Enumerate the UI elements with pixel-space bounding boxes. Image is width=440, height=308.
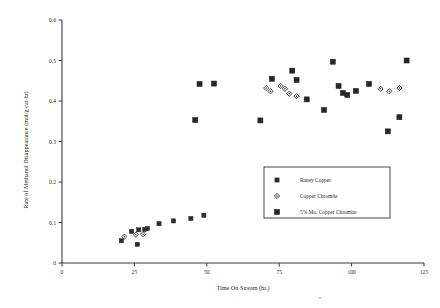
data-point xyxy=(202,213,206,217)
y-axis-title: Rate of Methanol Disappearance (mol/g ca… xyxy=(22,91,30,208)
page-artifact-dot xyxy=(319,297,321,299)
x-tick-label: 25 xyxy=(132,269,138,275)
y-tick-label: 0.4 xyxy=(49,98,56,104)
data-point xyxy=(366,81,371,86)
data-point-center xyxy=(270,91,272,93)
data-point xyxy=(212,81,217,86)
data-point xyxy=(404,58,409,63)
legend-marker xyxy=(275,210,280,215)
data-point xyxy=(330,59,335,64)
data-point xyxy=(258,118,263,123)
data-point xyxy=(157,222,161,226)
data-point-center xyxy=(388,91,390,93)
y-tick-label: 0 xyxy=(53,260,56,266)
y-tick-label: 0.2 xyxy=(49,179,56,185)
legend-label: 5% Mo. Copper Chromite xyxy=(300,209,357,215)
x-tick-label: 125 xyxy=(420,269,429,275)
data-point xyxy=(269,76,274,81)
data-point xyxy=(385,129,390,134)
data-point xyxy=(345,92,350,97)
data-point-center xyxy=(289,93,291,95)
legend-marker-center xyxy=(276,195,278,197)
data-point xyxy=(189,216,193,220)
data-point-center xyxy=(399,87,401,89)
data-point xyxy=(290,68,295,73)
y-tick-label: 0.6 xyxy=(49,17,56,23)
chart-canvas: 00.10.20.30.40.50.6 0255075100125 Rate o… xyxy=(0,0,440,308)
data-point xyxy=(145,226,149,230)
scatter-chart-figure: 00.10.20.30.40.50.6 0255075100125 Rate o… xyxy=(0,0,440,308)
data-point-center xyxy=(265,87,267,89)
x-tick-label: 0 xyxy=(61,269,64,275)
data-point-center xyxy=(296,95,298,97)
data-point xyxy=(135,242,139,246)
data-point xyxy=(197,81,202,86)
data-point-center xyxy=(135,234,137,236)
legend-label: Copper Chromite xyxy=(300,193,338,199)
x-tick-label: 100 xyxy=(347,269,356,275)
data-point xyxy=(171,219,175,223)
data-point-center xyxy=(142,233,144,235)
data-point xyxy=(137,228,141,232)
legend-marker xyxy=(275,178,279,182)
x-axis-title: Time On Stream (hr.) xyxy=(216,284,269,292)
y-tick-label: 0.1 xyxy=(49,220,56,226)
chart-legend: Raney CopperCopper Chromite5% Mo. Copper… xyxy=(264,167,390,218)
data-point xyxy=(193,118,198,123)
data-point-center xyxy=(380,88,382,90)
data-point-center xyxy=(280,85,282,87)
data-point xyxy=(294,77,299,82)
data-point xyxy=(397,115,402,120)
data-point-center xyxy=(284,88,286,90)
y-tick-label: 0.3 xyxy=(49,139,56,145)
chart-background xyxy=(0,0,440,308)
x-tick-label: 50 xyxy=(204,269,210,275)
data-point xyxy=(129,229,133,233)
legend-label: Raney Copper xyxy=(300,177,331,183)
y-tick-label: 0.5 xyxy=(49,58,56,64)
data-point xyxy=(304,97,309,102)
data-point xyxy=(353,88,358,93)
data-point xyxy=(336,84,341,89)
x-tick-label: 75 xyxy=(276,269,282,275)
data-point xyxy=(322,107,327,112)
data-point-center xyxy=(124,236,126,238)
data-point xyxy=(119,239,123,243)
